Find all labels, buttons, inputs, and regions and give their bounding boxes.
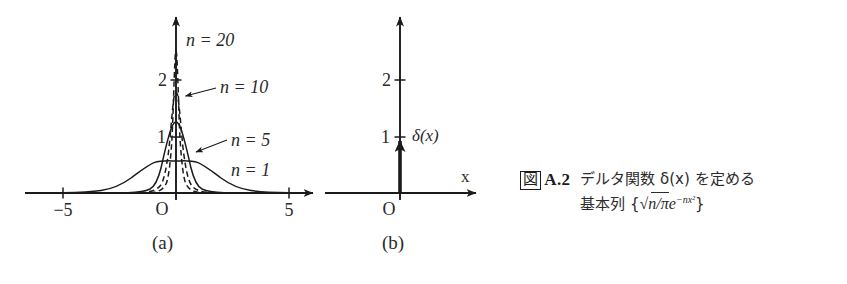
panel-a-ytick-label-2: 2 <box>158 70 167 90</box>
panel-b: 1 2 O δ(x) x <box>325 17 476 219</box>
figure-number: A.2 <box>544 170 570 189</box>
curve-label-n1: n = 1 <box>231 160 270 180</box>
caption-line-2: 基本列 {√n/πe−nx²} <box>580 191 754 217</box>
delta-function-label: δ(x) <box>412 126 439 145</box>
panel-a-sublabel: (a) <box>152 232 173 254</box>
panel-b-x-axis-label: x <box>461 167 470 186</box>
figure-caption-text: デルタ関数 δ(x) を定める 基本列 {√n/πe−nx²} <box>580 168 754 217</box>
panel-a-origin-label: O <box>156 199 169 219</box>
panel-b-ytick-label-2: 2 <box>382 70 391 90</box>
figure-caption: 図A.2 デルタ関数 δ(x) を定める 基本列 {√n/πe−nx²} <box>520 168 840 217</box>
figure-a2: −5 5 O 1 2 n = 20 n = 10 n = 5 n = 1 1 2… <box>0 0 847 284</box>
radicand: n/π <box>648 195 668 212</box>
caption-line-2-suffix: } <box>695 195 705 213</box>
curve-label-n5: n = 5 <box>231 130 270 150</box>
figure-kanji: 図 <box>520 171 541 190</box>
panel-a-xtick-label-5: 5 <box>285 200 294 220</box>
panel-b-origin-label: O <box>383 199 396 219</box>
curve-label-n10: n = 10 <box>220 77 268 97</box>
panel-a-ytick-label-1: 1 <box>157 127 166 147</box>
exponent: −nx² <box>676 194 695 205</box>
curve-label-n20: n = 20 <box>186 30 234 50</box>
caption-line-2-prefix: 基本列 { <box>580 195 639 213</box>
leader-line-n10 <box>186 88 217 96</box>
figure-canvas: −5 5 O 1 2 n = 20 n = 10 n = 5 n = 1 1 2… <box>0 0 847 284</box>
figure-number-label: 図A.2 <box>520 168 570 190</box>
panel-a-xtick-label-neg5: −5 <box>53 200 72 220</box>
leader-line-n5 <box>196 140 227 152</box>
caption-line-1: デルタ関数 δ(x) を定める <box>580 168 754 191</box>
panel-b-sublabel: (b) <box>382 232 404 254</box>
panel-a: −5 5 O 1 2 n = 20 n = 10 n = 5 n = 1 <box>25 17 313 220</box>
exponential-base: e <box>669 195 676 212</box>
sqrt-symbol: √n/π <box>640 191 669 217</box>
panel-b-ytick-label-1: 1 <box>381 127 390 147</box>
